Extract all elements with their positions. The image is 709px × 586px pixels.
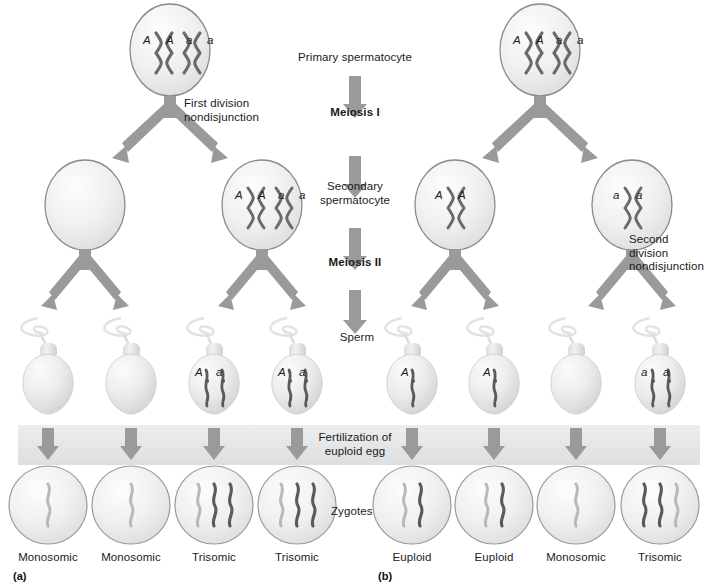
panel-b-primary-allele-3: a [556, 34, 563, 48]
second-division-nondisjunction-label: Second division nondisjunction [629, 233, 704, 274]
panel-b-zygote-4 [621, 466, 699, 544]
panel-b-zygote-label-4: Trisomic [638, 551, 682, 565]
meiosis-i-label: Meiosis I [330, 106, 379, 120]
panel-a-zygote-2 [92, 466, 170, 544]
fertilization-label: Fertilization of euploid egg [318, 431, 391, 458]
panel-a-sperm-2 [104, 318, 156, 414]
panel-a-secondary-spermatocyte-right [222, 160, 302, 250]
panel-b-primary-allele-4: a [577, 34, 584, 48]
panel-a-primary-allele-1: A [143, 34, 151, 48]
panel-a-sperm-4-allele-2: a [299, 366, 306, 380]
panel-b-secondary-right-allele-1: a [613, 189, 620, 203]
panel-b-zygote-label-1: Euploid [392, 551, 431, 565]
panel-a-zygote-3 [175, 466, 253, 544]
panel-b-sperm-2-allele-1: A [483, 366, 491, 380]
panel-a-zygote-4 [258, 466, 336, 544]
panel-a-sperm-3-allele-2: a [216, 366, 223, 380]
panel-b-zygote-label-3: Monosomic [546, 551, 606, 565]
primary-spermatocyte-label: Primary spermatocyte [298, 51, 412, 65]
panel-b-sperm-2 [467, 318, 519, 414]
panel-b-sperm-1 [385, 318, 437, 414]
panel-b-secondary-right-allele-2: a [636, 189, 643, 203]
panel-a-zygote-label-2: Monosomic [101, 551, 161, 565]
panel-a-secondary-right-allele-4: a [299, 189, 306, 203]
panel-b-secondary-spermatocyte-left [415, 160, 495, 250]
panel-a-zygote-label-3: Trisomic [192, 551, 236, 565]
panel-a-zygote-label-1: Monosomic [18, 551, 78, 565]
diagram-artwork [0, 0, 709, 586]
panel-a-primary-allele-3: a [186, 34, 193, 48]
panel-a-secondary-right-allele-2: A [258, 189, 266, 203]
panel-b-sperm-3 [549, 318, 601, 414]
arrow-to-sperm [343, 290, 367, 334]
panel-a-tag: (a) [13, 570, 26, 582]
panel-a-primary-allele-4: a [207, 34, 214, 48]
panel-b-secondary-left-allele-2: A [458, 189, 466, 203]
panel-b-meiosis1-arrow [482, 96, 598, 163]
panel-a-sperm-1 [21, 318, 73, 414]
panel-b-meiosis2-arrow-left [411, 250, 499, 310]
zygotes-label: Zygotes [331, 505, 373, 519]
panel-b-zygote-label-2: Euploid [474, 551, 513, 565]
panel-a-secondary-right-allele-1: A [235, 189, 243, 203]
panel-b-primary-spermatocyte [500, 4, 580, 96]
panel-a-meiosis2-arrow-right [218, 250, 306, 310]
panel-b-sperm-4-allele-2: a [663, 366, 670, 380]
secondary-spermatocyte-label: Secondary spermatocyte [320, 180, 390, 207]
panel-a-meiosis2-arrow-left [41, 250, 129, 310]
panel-b-primary-allele-2: A [536, 34, 544, 48]
figure-canvas: A A a a A A a a A a A a A A a a A A a a … [0, 0, 709, 586]
panel-b-primary-allele-1: A [513, 34, 521, 48]
panel-b-tag: (b) [378, 570, 392, 582]
panel-b-sperm-4-allele-1: a [641, 366, 648, 380]
panel-b-sperm-1-allele-1: A [401, 366, 409, 380]
panel-b-zygote-2 [455, 466, 533, 544]
panel-a-zygote-label-4: Trisomic [275, 551, 319, 565]
first-division-nondisjunction-label: First division nondisjunction [184, 97, 259, 124]
panel-a-secondary-spermatocyte-left [45, 160, 125, 250]
panel-b-zygote-3 [537, 466, 615, 544]
panel-b-secondary-left-allele-1: A [435, 189, 443, 203]
panel-a-primary-allele-2: A [166, 34, 174, 48]
panel-b-zygote-1 [373, 466, 451, 544]
panel-a-sperm-4-allele-1: A [278, 366, 286, 380]
sperm-label: Sperm [340, 331, 374, 345]
panel-a-primary-spermatocyte [130, 4, 210, 96]
panel-a-sperm-3-allele-1: A [195, 366, 203, 380]
meiosis-ii-label: Meiosis II [329, 256, 382, 270]
panel-a-zygote-1 [9, 466, 87, 544]
panel-a-secondary-right-allele-3: a [278, 189, 285, 203]
